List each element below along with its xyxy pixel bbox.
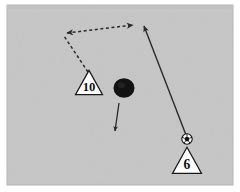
player-number-10: 10 <box>83 80 96 94</box>
soccer-drill-diagram: Soccer Passing Drill Diagram <box>0 0 240 192</box>
field-top-shade <box>7 5 233 9</box>
ball-marker <box>182 134 192 144</box>
cone-icon <box>114 78 135 98</box>
soccer-ball-icon <box>182 134 192 144</box>
player-number-6: 6 <box>184 157 191 172</box>
cone-marker <box>114 78 135 98</box>
diagram-canvas: Pass from player 6Run of player 10 upfie… <box>0 0 240 192</box>
